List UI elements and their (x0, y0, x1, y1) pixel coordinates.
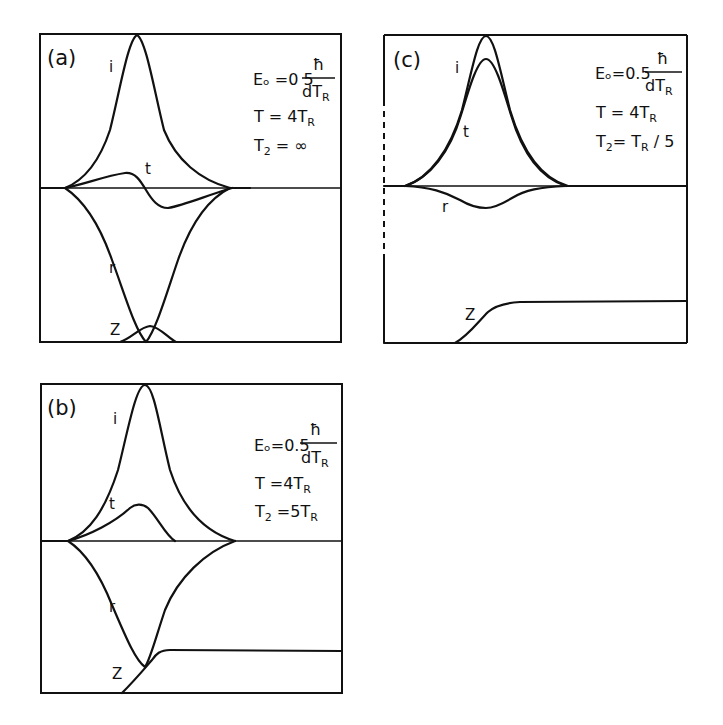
panel-b-label: (b) (47, 396, 77, 420)
figure: (a) i t r Z Eₒ =0 5 ħ dTR T = 4TR T2 = ∞… (0, 0, 723, 725)
panel-c-param-dt: dTR (645, 76, 673, 98)
panel-c-curve-t (405, 59, 566, 186)
panel-b-label-t: t (109, 495, 115, 513)
panel-a-param-hbar: ħ (313, 55, 324, 74)
panel-b-param-hbar: ħ (310, 420, 321, 439)
panel-a: (a) i t r Z Eₒ =0 5 ħ dTR T = 4TR T2 = ∞ (40, 34, 341, 342)
panel-c-param-t: T = 4TR (595, 103, 657, 125)
panel-c-param-e0: Eₒ=0.5 (595, 64, 651, 83)
panel-a-param-dt: dTR (302, 82, 330, 104)
panel-c-param-t2: T2= TR / 5 (595, 132, 674, 154)
panel-b-frame (41, 384, 342, 693)
panel-c-label-t: t (463, 123, 469, 141)
panel-c-label-z: Z (465, 306, 475, 324)
panel-b-param-t: T =4TR (254, 474, 311, 496)
panel-b-curve-r (41, 541, 235, 667)
panel-a-param-t2: T2 = ∞ (253, 136, 308, 158)
panel-c-label-i: i (455, 59, 459, 77)
panel-b-param-t2: T2 =5TR (254, 502, 318, 524)
panel-c-curve-z (384, 301, 687, 343)
panel-b: (b) i t r Z Eₒ=0.5 ħ dTR T =4TR T2 =5TR (41, 384, 342, 693)
panel-b-label-r: r (109, 598, 116, 616)
panel-b-label-z: Z (112, 665, 122, 683)
panel-c-label-r: r (442, 198, 449, 216)
panel-a-curve-z (40, 326, 341, 342)
panel-a-params: Eₒ =0 5 ħ dTR T = 4TR T2 = ∞ (253, 55, 335, 158)
panel-b-curve-z (122, 650, 342, 693)
panel-a-label: (a) (47, 46, 76, 70)
panel-a-label-i: i (109, 58, 113, 76)
panel-c-params: Eₒ=0.5 ħ dTR T = 4TR T2= TR / 5 (595, 49, 682, 154)
panel-b-label-i: i (113, 410, 117, 428)
panel-a-label-z: Z (110, 321, 120, 339)
panel-c: (c) i t r Z Eₒ=0.5 ħ dTR T = 4TR T2= TR … (384, 35, 687, 343)
panel-a-curve-r (40, 188, 230, 342)
panel-c-param-hbar: ħ (657, 49, 668, 68)
panel-b-params: Eₒ=0.5 ħ dTR T =4TR T2 =5TR (254, 420, 337, 524)
panel-b-curve-t (68, 505, 175, 541)
panel-b-param-dt: dTR (301, 448, 329, 470)
panel-a-label-r: r (109, 259, 116, 277)
panel-a-param-t: T = 4TR (253, 107, 315, 129)
panel-a-label-t: t (145, 160, 151, 178)
panel-c-label: (c) (393, 48, 421, 72)
